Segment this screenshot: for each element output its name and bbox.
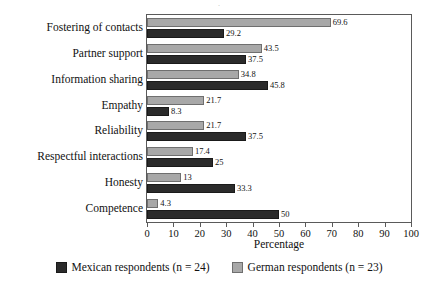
bar-mexican (147, 132, 246, 141)
chart-legend: Mexican respondents (n = 24)German respo… (0, 258, 438, 276)
bar-value-label: 45.8 (270, 81, 285, 90)
bar-german (147, 44, 262, 53)
bar-mexican (147, 184, 235, 193)
bar-mexican (147, 158, 213, 167)
x-tick-mark (358, 223, 359, 227)
x-tick-mark (200, 223, 201, 227)
bar-value-label: 43.5 (264, 44, 279, 53)
bar-mexican (147, 210, 279, 219)
bar-mexican (147, 107, 169, 116)
bar-mexican (147, 55, 246, 64)
chart-title-remnant: . (0, 0, 438, 8)
x-tick-mark (173, 223, 174, 227)
category-label: Partner support (0, 47, 143, 59)
bar-value-label: 21.7 (206, 96, 221, 105)
bar-german (147, 70, 239, 79)
x-tick-mark (226, 223, 227, 227)
legend-swatch-german (232, 262, 243, 273)
bar-value-label: 34.8 (241, 70, 256, 79)
bar-chart-figure: . Fostering of contactsPartner supportIn… (0, 0, 438, 286)
bars-layer: 69.629.243.537.534.845.821.78.321.737.51… (147, 15, 411, 222)
bar-value-label: 29.2 (226, 29, 241, 38)
bar-value-label: 37.5 (248, 132, 263, 141)
bar-value-label: 13 (183, 173, 192, 182)
bar-value-label: 4.3 (160, 199, 171, 208)
category-label: Fostering of contacts (0, 21, 143, 33)
bar-value-label: 17.4 (195, 147, 210, 156)
bar-value-label: 69.6 (333, 18, 348, 27)
category-label: Empathy (0, 99, 143, 111)
bar-german (147, 121, 204, 130)
category-label: Information sharing (0, 73, 143, 85)
bar-value-label: 25 (215, 158, 224, 167)
x-tick-mark (253, 223, 254, 227)
bar-german (147, 173, 181, 182)
legend-item: German respondents (n = 23) (232, 261, 383, 273)
legend-swatch-mexican (56, 262, 67, 273)
bar-value-label: 21.7 (206, 121, 221, 130)
legend-item: Mexican respondents (n = 24) (56, 261, 210, 273)
bar-german (147, 199, 158, 208)
legend-label: Mexican respondents (n = 24) (72, 261, 210, 273)
bar-mexican (147, 81, 268, 90)
x-tick-mark (332, 223, 333, 227)
legend-label: German respondents (n = 23) (248, 261, 383, 273)
bar-german (147, 96, 204, 105)
x-tick-mark (279, 223, 280, 227)
category-label: Honesty (0, 176, 143, 188)
bar-value-label: 33.3 (237, 184, 252, 193)
bar-german (147, 147, 193, 156)
bar-mexican (147, 29, 224, 38)
x-tick-mark (147, 223, 148, 227)
category-axis-labels: Fostering of contactsPartner supportInfo… (0, 14, 143, 223)
x-axis-title: Percentage (146, 238, 412, 251)
bar-value-label: 37.5 (248, 55, 263, 64)
x-tick-mark (305, 223, 306, 227)
category-label: Respectful interactions (0, 150, 143, 162)
x-tick-mark (411, 223, 412, 227)
category-label: Reliability (0, 124, 143, 136)
x-tick-mark (385, 223, 386, 227)
bar-value-label: 50 (281, 210, 290, 219)
bar-value-label: 8.3 (171, 107, 182, 116)
category-label: Competence (0, 202, 143, 214)
bar-german (147, 18, 331, 27)
